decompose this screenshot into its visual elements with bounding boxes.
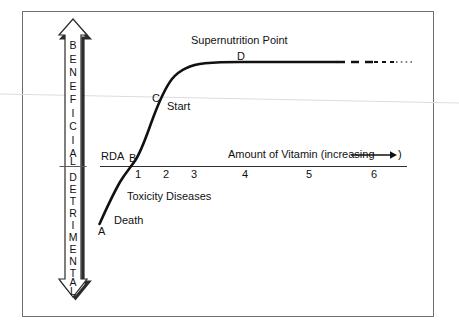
x-tick-label: 6 <box>366 169 382 180</box>
detrimental-letter: T <box>66 196 80 207</box>
point-d-label: D <box>237 51 245 62</box>
point-b-label: B <box>129 153 136 164</box>
beneficial-letter: I <box>66 108 80 119</box>
detrimental-letter: E <box>66 244 80 255</box>
beneficial-letter: E <box>66 81 80 92</box>
rda-label: RDA <box>101 151 124 162</box>
x-tick-label: 3 <box>186 169 202 180</box>
detrimental-letter: I <box>66 220 80 231</box>
detrimental-letter: D <box>66 172 80 183</box>
vitamin-response-figure: B E N E F I C I A L D E T R I M E N T A … <box>0 0 459 333</box>
x-tick-label: 1 <box>130 169 146 180</box>
detrimental-letter: L <box>66 286 80 297</box>
detrimental-letter: E <box>66 184 80 195</box>
beneficial-letter: L <box>66 156 80 167</box>
detrimental-letter: M <box>66 232 80 243</box>
toxicity-diseases-label: Toxicity Diseases <box>127 191 211 202</box>
beneficial-letter: C <box>66 121 80 132</box>
beneficial-letter: I <box>66 135 80 146</box>
x-tick-label: 5 <box>301 169 317 180</box>
start-label: Start <box>167 101 190 112</box>
x-tick-label: 4 <box>237 169 253 180</box>
x-axis-title-close-paren: ) <box>398 149 402 160</box>
supernutrition-point-label: Supernutrition Point <box>191 35 288 46</box>
death-label: Death <box>114 215 143 226</box>
beneficial-letter: N <box>66 67 80 78</box>
detrimental-letter: N <box>66 256 80 267</box>
detrimental-letter: R <box>66 208 80 219</box>
x-axis-title: Amount of Vitamin (increasing <box>228 149 375 160</box>
beneficial-letter: B <box>66 40 80 51</box>
point-a-label: A <box>98 226 105 237</box>
x-tick-label: 2 <box>158 169 174 180</box>
point-c-label: C <box>152 93 160 104</box>
beneficial-letter: E <box>66 54 80 65</box>
beneficial-letter: F <box>66 94 80 105</box>
